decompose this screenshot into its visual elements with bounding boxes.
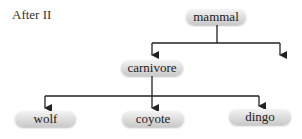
node-wolf: wolf xyxy=(15,111,76,127)
node-carnivore: carnivore xyxy=(121,60,183,76)
node-coyote: coyote xyxy=(122,111,184,127)
node-mammal: mammal xyxy=(186,9,246,25)
node-dingo: dingo xyxy=(229,109,291,125)
